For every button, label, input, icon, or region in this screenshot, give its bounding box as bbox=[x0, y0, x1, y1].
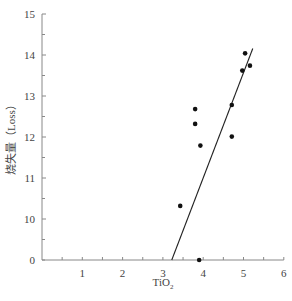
y-tick-label: 14 bbox=[24, 49, 36, 61]
y-tick-label: 11 bbox=[24, 172, 35, 184]
data-point bbox=[240, 68, 245, 73]
data-point bbox=[243, 51, 248, 56]
y-tick-label: 13 bbox=[24, 90, 36, 102]
data-point bbox=[178, 204, 183, 209]
y-tick-label: 15 bbox=[24, 8, 36, 20]
trend-line bbox=[172, 48, 253, 260]
data-point bbox=[230, 134, 235, 139]
y-tick-label: 12 bbox=[24, 131, 35, 143]
data-point bbox=[248, 63, 253, 68]
y-tick-label: 0 bbox=[30, 254, 36, 266]
x-tick-label: 4 bbox=[200, 267, 206, 279]
scatter-chart: 0101112131415123456 TiO2 烧失量（Loss） bbox=[0, 0, 292, 301]
x-tick-label: 6 bbox=[281, 267, 287, 279]
data-point bbox=[193, 122, 198, 127]
data-point bbox=[230, 103, 235, 108]
x-tick-label: 1 bbox=[80, 267, 86, 279]
data-point bbox=[197, 258, 202, 263]
x-tick-label: 5 bbox=[241, 267, 247, 279]
x-axis-title: TiO2 bbox=[153, 276, 174, 291]
y-axis-title: 烧失量（Loss） bbox=[5, 99, 17, 175]
axes: 0101112131415123456 bbox=[24, 8, 287, 279]
y-tick-label: 10 bbox=[24, 213, 36, 225]
data-point bbox=[198, 143, 203, 148]
data-points bbox=[178, 51, 252, 262]
x-tick-label: 2 bbox=[120, 267, 126, 279]
data-point bbox=[193, 107, 198, 112]
